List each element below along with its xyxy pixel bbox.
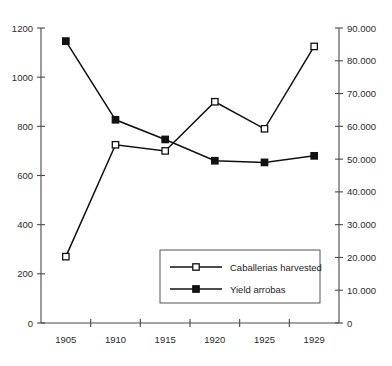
- x-axis-tick-label: 1915: [155, 334, 176, 345]
- right-axis-tick-label: 70.000: [347, 88, 376, 99]
- x-axis-tick-label: 1920: [204, 334, 225, 345]
- left-axis-tick-label: 1000: [12, 72, 33, 83]
- right-axis-tick-label: 50.000: [347, 154, 376, 165]
- left-axis-tick-label: 0: [28, 318, 33, 329]
- legend-entry-label: Caballerias harvested: [230, 262, 322, 273]
- data-point-marker: [311, 153, 317, 159]
- left-axis-tick-label: 1200: [12, 23, 33, 34]
- left-axis-tick-label: 400: [17, 219, 33, 230]
- left-axis-tick-label: 200: [17, 268, 33, 279]
- data-point-marker: [261, 159, 267, 165]
- line-chart: 020040060080010001200010.00020.00030.000…: [0, 0, 392, 366]
- legend-swatch-marker: [193, 264, 199, 270]
- right-axis-tick-label: 20.000: [347, 252, 376, 263]
- right-axis-tick-label: 60.000: [347, 121, 376, 132]
- x-axis-tick-label: 1925: [254, 334, 275, 345]
- x-axis-tick-label: 1905: [55, 334, 76, 345]
- right-axis-tick-label: 0: [347, 318, 352, 329]
- chart-container: 020040060080010001200010.00020.00030.000…: [0, 0, 392, 366]
- data-point-marker: [311, 43, 317, 49]
- data-point-marker: [162, 148, 168, 154]
- x-axis-tick-label: 1910: [105, 334, 126, 345]
- data-point-marker: [212, 99, 218, 105]
- data-point-marker: [162, 136, 168, 142]
- series-line-left: [66, 46, 314, 256]
- right-axis-tick-label: 80.000: [347, 55, 376, 66]
- left-axis-tick-label: 800: [17, 121, 33, 132]
- x-axis-tick-label: 1929: [304, 334, 325, 345]
- data-point-marker: [112, 117, 118, 123]
- right-axis-tick-label: 30.000: [347, 219, 376, 230]
- left-axis-tick-label: 600: [17, 170, 33, 181]
- data-point-marker: [261, 126, 267, 132]
- legend-swatch-marker: [193, 286, 199, 292]
- right-axis-tick-label: 10.000: [347, 285, 376, 296]
- right-axis-tick-label: 40.000: [347, 186, 376, 197]
- data-point-marker: [112, 142, 118, 148]
- right-axis-tick-label: 90.000: [347, 23, 376, 34]
- legend-entry-label: Yield arrobas: [230, 284, 286, 295]
- legend-box: [160, 250, 320, 303]
- series-line-right: [66, 41, 314, 162]
- data-point-marker: [63, 38, 69, 44]
- data-point-marker: [212, 158, 218, 164]
- data-point-marker: [63, 253, 69, 259]
